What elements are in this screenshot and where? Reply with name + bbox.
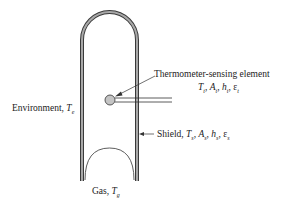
sensor-element xyxy=(105,95,115,105)
shield-label: Shield, Ts, As, hs, εs xyxy=(157,130,230,141)
sub: t xyxy=(237,88,239,94)
diagram-canvas: Thermometer-sensing element Tt, At, ht, … xyxy=(0,0,294,208)
sub: g xyxy=(117,192,120,198)
sensor-pointer-arrowhead xyxy=(115,92,123,97)
sub: t xyxy=(203,88,205,94)
text: Environment, xyxy=(12,103,66,113)
sub: t xyxy=(216,88,218,94)
text: Shield, xyxy=(157,129,186,139)
gas-label: Gas, Tg xyxy=(92,187,120,198)
sub: e xyxy=(72,109,75,115)
sensor-params-label: Tt, At, ht, εt xyxy=(198,83,239,94)
sensor-title-label: Thermometer-sensing element xyxy=(154,70,270,80)
sub: s xyxy=(191,135,193,141)
environment-label: Environment, Te xyxy=(12,104,74,115)
shield-pointer-arrowhead xyxy=(139,132,144,136)
sub: s xyxy=(204,135,206,141)
sub: s xyxy=(227,135,229,141)
text: Gas, xyxy=(92,186,112,196)
sub: t xyxy=(227,88,229,94)
shield-bottom-arc xyxy=(85,148,134,180)
sub: s xyxy=(216,135,218,141)
